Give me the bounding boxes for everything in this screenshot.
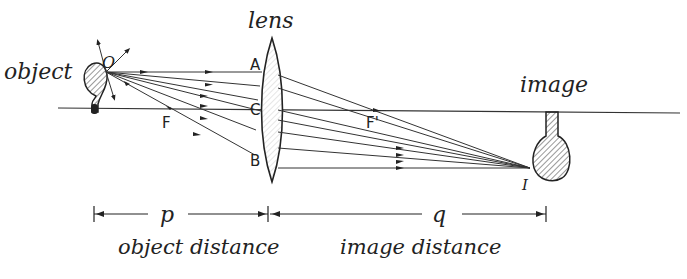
point-a-label: A [250, 56, 261, 74]
point-i-label: I [521, 176, 529, 194]
focus-f-label: F [162, 114, 171, 132]
point-c-label: C [250, 101, 260, 119]
object-distance-label: object distance [118, 235, 280, 259]
object-label: object [4, 59, 72, 84]
rays-image-side [278, 75, 530, 168]
image-label: image [520, 72, 588, 97]
lens-label: lens [248, 8, 294, 33]
rays-object-side [98, 42, 265, 155]
point-b-label: B [250, 152, 260, 170]
thin-lens-ray-diagram: object O lens image A C B F F' I p q obj… [0, 0, 687, 279]
focus-f-prime-label: F' [366, 114, 379, 132]
p-label: p [160, 202, 174, 227]
image-distance-label: image distance [340, 235, 501, 259]
point-o-label: O [102, 53, 115, 72]
image-bulb [533, 112, 570, 181]
q-label: q [432, 202, 446, 227]
